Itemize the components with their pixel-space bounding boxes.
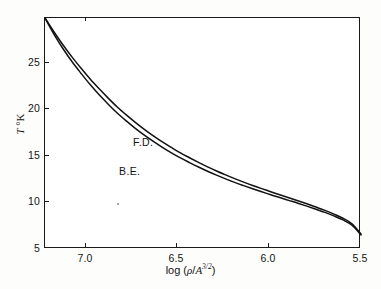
curve-annotation-be: B.E. <box>119 165 140 177</box>
y-axis-title-unit: °K <box>14 114 26 126</box>
curve-canvas <box>45 18 361 249</box>
series-fd-curve <box>45 18 361 234</box>
y-tick-mark <box>44 62 49 63</box>
figure-root: 25 20 15 10 5 7.0 6.5 6.0 5.5 T °K log (… <box>0 0 381 289</box>
y-tick-label-5: 5 <box>16 242 40 254</box>
y-tick-mark <box>44 201 49 202</box>
curve-annotation-fd: F.D. <box>133 136 153 148</box>
x-tick-mark <box>176 243 177 248</box>
y-tick-label-10: 10 <box>16 195 40 207</box>
x-axis-title-suffix: ) <box>212 264 216 276</box>
y-axis-title-symbol: T <box>14 129 26 135</box>
y-tick-mark <box>44 155 49 156</box>
x-axis-title: log (ρ/A3/2) <box>0 262 381 276</box>
y-tick-mark <box>44 108 49 109</box>
x-axis-title-prefix: log ( <box>166 264 187 276</box>
x-tick-mark-top <box>85 17 86 21</box>
series-be-curve <box>45 18 361 235</box>
y-axis-title: T °K <box>14 96 26 152</box>
x-axis-title-exponent: 3/2 <box>202 262 212 271</box>
paper-speck <box>117 203 119 205</box>
x-tick-mark <box>85 243 86 248</box>
y-tick-label-25: 25 <box>16 56 40 68</box>
plot-frame <box>44 17 360 248</box>
x-tick-mark <box>268 243 269 248</box>
